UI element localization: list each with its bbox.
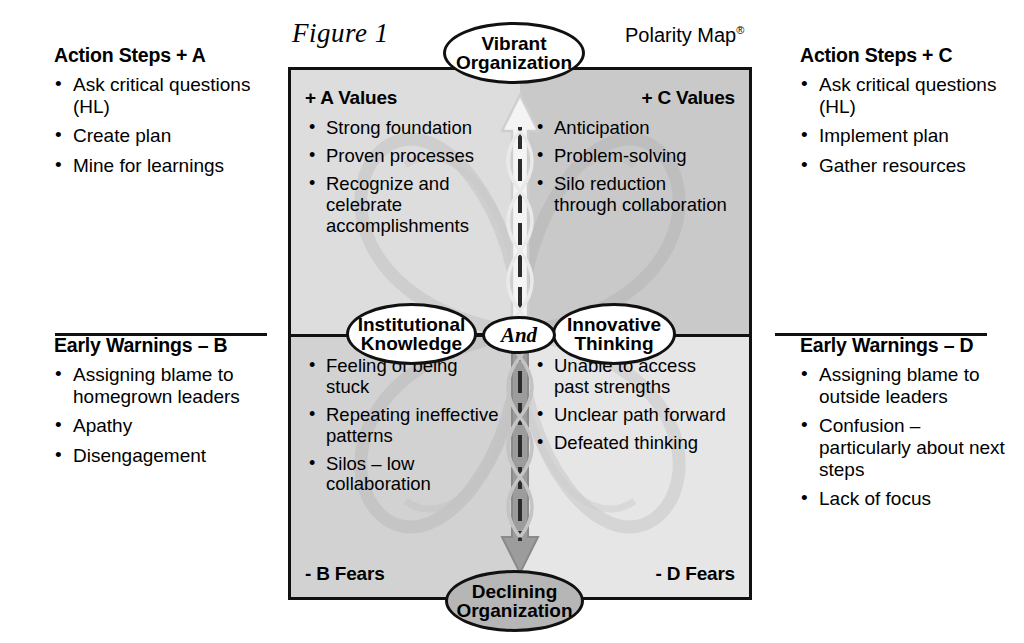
list-item: Recognize and celebrate accomplishments	[309, 174, 505, 237]
list-item: Apathy	[54, 415, 266, 437]
oval-line-1: Institutional	[358, 315, 466, 334]
list-item: Repeating ineffective patterns	[309, 405, 505, 447]
oval-line-1: Declining	[456, 582, 572, 601]
list-item: Anticipation	[537, 118, 733, 139]
list-item: Assigning blame to outside leaders	[800, 364, 1012, 407]
list-item: Defeated thinking	[537, 433, 733, 454]
figure-label: Figure 1	[292, 18, 389, 49]
list-item: Problem-solving	[537, 146, 733, 167]
panel-early-warnings-b: Early Warnings – B Assigning blame to ho…	[26, 334, 266, 475]
list-item: Silos – low collaboration	[309, 454, 505, 496]
list-item: Gather resources	[800, 155, 1012, 177]
oval-and: And	[482, 316, 556, 354]
quadrant-heading-upper-left: + A Values	[305, 87, 397, 109]
oval-line-1: Innovative	[567, 315, 661, 334]
quadrant-list-upper-right: Anticipation Problem-solving Silo reduct…	[537, 118, 733, 223]
list-item: Confusion – particularly about next step…	[800, 415, 1012, 480]
list-item: Implement plan	[800, 125, 1012, 147]
quadrant-list-lower-left: Feeling of being stuck Repeating ineffec…	[309, 356, 505, 502]
oval-innovative-thinking: Innovative Thinking	[552, 303, 676, 365]
list-item: Disengagement	[54, 445, 266, 467]
panel-list: Assigning blame to homegrown leaders Apa…	[54, 364, 266, 467]
oval-line-2: Knowledge	[358, 334, 466, 353]
oval-vibrant-organization: Vibrant Organization	[443, 22, 585, 84]
list-item: Silo reduction through collaboration	[537, 174, 733, 216]
panel-heading: Action Steps + A	[54, 44, 266, 67]
panel-early-warnings-d: Early Warnings – D Assigning blame to ou…	[772, 334, 1012, 518]
quadrant-heading-lower-right: - D Fears	[655, 563, 735, 585]
list-item: Ask critical questions (HL)	[800, 74, 1012, 117]
list-item: Ask critical questions (HL)	[54, 74, 266, 117]
oval-declining-organization: Declining Organization	[445, 570, 584, 632]
panel-heading: Action Steps + C	[800, 44, 1012, 67]
list-item: Mine for learnings	[54, 155, 266, 177]
panel-heading: Early Warnings – B	[54, 334, 266, 357]
quadrant-list-lower-right: Unable to access past strengths Unclear …	[537, 356, 733, 461]
quadrant-heading-lower-left: - B Fears	[305, 563, 385, 585]
list-item: Unclear path forward	[537, 405, 733, 426]
registered-trademark-icon: ®	[736, 24, 744, 36]
oval-line-2: Thinking	[567, 334, 661, 353]
quadrant-list-upper-left: Strong foundation Proven processes Recog…	[309, 118, 505, 243]
panel-action-steps-a: Action Steps + A Ask critical questions …	[26, 44, 266, 185]
panel-heading: Early Warnings – D	[800, 334, 1012, 357]
polarity-map-label: Polarity Map®	[625, 24, 744, 47]
panel-action-steps-c: Action Steps + C Ask critical questions …	[772, 44, 1012, 185]
oval-line-2: Organization	[456, 601, 572, 620]
oval-line-2: Organization	[456, 53, 572, 72]
panel-list: Assigning blame to outside leaders Confu…	[800, 364, 1012, 510]
quadrant-heading-upper-right: + C Values	[641, 87, 735, 109]
panel-list: Ask critical questions (HL) Create plan …	[54, 74, 266, 177]
oval-institutional-knowledge: Institutional Knowledge	[346, 303, 477, 365]
list-item: Assigning blame to homegrown leaders	[54, 364, 266, 407]
list-item: Strong foundation	[309, 118, 505, 139]
list-item: Proven processes	[309, 146, 505, 167]
polarity-map-text: Polarity Map	[625, 24, 736, 46]
panel-list: Ask critical questions (HL) Implement pl…	[800, 74, 1012, 177]
oval-line-1: Vibrant	[456, 34, 572, 53]
list-item: Create plan	[54, 125, 266, 147]
list-item: Lack of focus	[800, 488, 1012, 510]
